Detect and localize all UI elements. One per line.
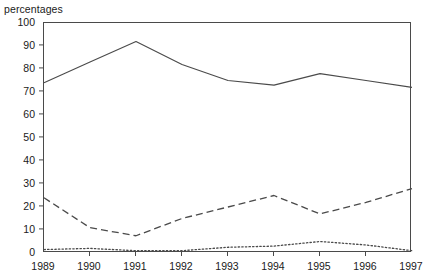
series-line-series-solid (44, 41, 412, 87)
x-tick-label: 1992 (169, 261, 192, 272)
x-tick-mark (227, 252, 228, 256)
x-axis: 198919901991199219931994199519961997 (0, 252, 423, 275)
x-tick-label: 1991 (123, 261, 146, 272)
x-tick-label: 1989 (31, 261, 54, 272)
x-tick-label: 1994 (261, 261, 284, 272)
y-tick-label: 40 (23, 155, 35, 166)
x-tick-label: 1996 (353, 261, 376, 272)
x-tick-mark (135, 252, 136, 256)
x-tick-mark (181, 252, 182, 256)
x-tick-mark (365, 252, 366, 256)
y-tick-label: 20 (23, 201, 35, 212)
y-tick-label: 80 (23, 63, 35, 74)
y-tick-label: 100 (17, 17, 35, 28)
y-tick-label: 70 (23, 86, 35, 97)
x-tick-label: 1995 (307, 261, 330, 272)
series-line-series-dotted (44, 242, 412, 251)
x-tick-mark (273, 252, 274, 256)
y-tick-label: 60 (23, 109, 35, 120)
y-tick-label: 30 (23, 178, 35, 189)
series-line-series-dashed (44, 189, 412, 236)
x-tick-label: 1990 (77, 261, 100, 272)
line-chart: percentages 0102030405060708090100 19891… (0, 0, 423, 275)
y-tick-label: 90 (23, 40, 35, 51)
y-tick-label: 10 (23, 224, 35, 235)
x-tick-mark (89, 252, 90, 256)
y-axis: 0102030405060708090100 (0, 0, 43, 275)
series-layer (44, 23, 412, 253)
plot-area (43, 22, 411, 252)
y-tick-label: 50 (23, 132, 35, 143)
x-tick-label: 1993 (215, 261, 238, 272)
x-tick-mark (319, 252, 320, 256)
x-tick-label: 1997 (399, 261, 422, 272)
